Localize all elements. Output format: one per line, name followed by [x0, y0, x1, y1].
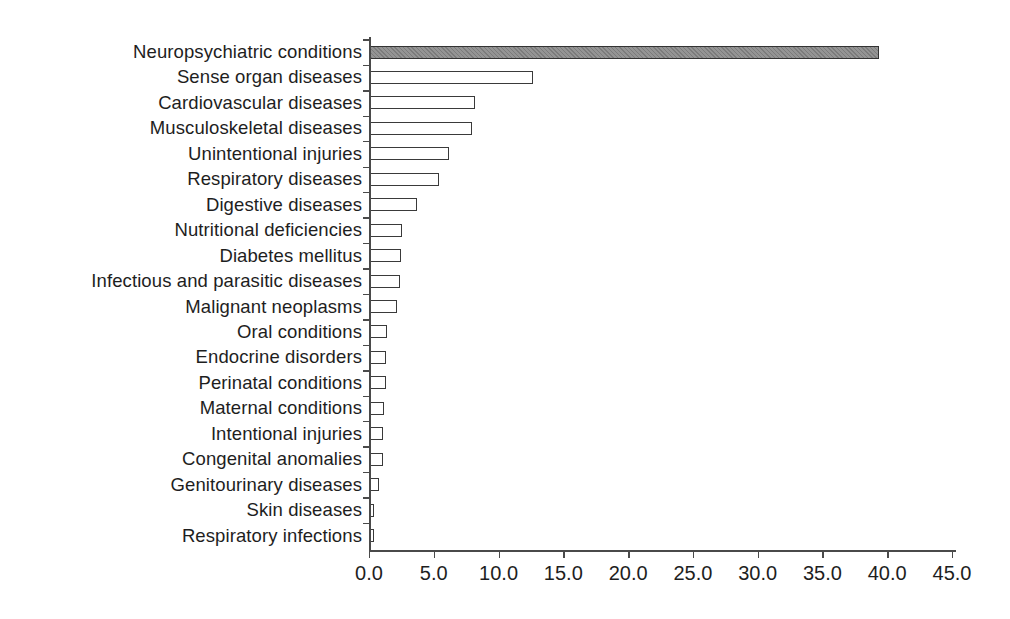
- y-axis-tick: [363, 65, 369, 66]
- category-label: Genitourinary diseases: [0, 476, 362, 495]
- category-label: Maternal conditions: [0, 399, 362, 418]
- y-axis-tick: [363, 319, 369, 320]
- category-label: Skin diseases: [0, 501, 362, 520]
- x-axis-tick-label: 15.0: [544, 562, 583, 585]
- bar-plain: [370, 453, 383, 466]
- x-axis-tick: [952, 550, 953, 558]
- bar-plain: [370, 478, 379, 491]
- x-axis-tick: [628, 550, 629, 558]
- y-axis-tick: [363, 446, 369, 447]
- x-axis-tick-label: 25.0: [673, 562, 712, 585]
- bar-plain: [370, 402, 384, 415]
- bar-plain: [370, 351, 386, 364]
- bar-plain: [370, 198, 417, 211]
- y-axis-tick: [363, 294, 369, 295]
- x-axis-tick: [499, 550, 500, 558]
- category-label: Unintentional injuries: [0, 145, 362, 164]
- category-label: Digestive diseases: [0, 196, 362, 215]
- bar-plain: [370, 325, 387, 338]
- bar-plain: [370, 173, 439, 186]
- x-axis-tick: [887, 550, 888, 558]
- y-axis-tick: [363, 472, 369, 473]
- bar-plain: [370, 96, 475, 109]
- x-axis-tick: [563, 550, 564, 558]
- y-axis-tick: [363, 370, 369, 371]
- category-label: Intentional injuries: [0, 425, 362, 444]
- x-axis-tick: [822, 550, 823, 558]
- category-label: Oral conditions: [0, 323, 362, 342]
- category-label: Congenital anomalies: [0, 450, 362, 469]
- y-axis-tick: [363, 39, 369, 40]
- category-label: Musculoskeletal diseases: [0, 119, 362, 138]
- y-axis-tick: [363, 192, 369, 193]
- category-label: Malignant neoplasms: [0, 298, 362, 317]
- y-axis-tick: [363, 90, 369, 91]
- bar-plain: [370, 300, 397, 313]
- bar-plain: [370, 376, 386, 389]
- bar-plain: [370, 249, 401, 262]
- y-axis-tick: [363, 421, 369, 422]
- y-axis-tick: [363, 268, 369, 269]
- category-label: Endocrine disorders: [0, 348, 362, 367]
- category-label: Infectious and parasitic diseases: [0, 272, 362, 291]
- bar-highlighted: [370, 46, 879, 59]
- bar-plain: [370, 275, 400, 288]
- category-label: Perinatal conditions: [0, 374, 362, 393]
- category-label: Neuropsychiatric conditions: [0, 43, 362, 62]
- y-axis-line: [369, 37, 371, 550]
- category-label: Cardiovascular diseases: [0, 94, 362, 113]
- x-axis-tick-label: 10.0: [479, 562, 518, 585]
- bar-plain: [370, 71, 533, 84]
- bar-chart: Neuropsychiatric conditionsSense organ d…: [0, 0, 1010, 619]
- x-axis-tick-label: 20.0: [609, 562, 648, 585]
- bar-plain: [370, 122, 472, 135]
- x-axis-tick: [369, 550, 370, 558]
- y-axis-tick: [363, 167, 369, 168]
- bar-plain: [370, 147, 449, 160]
- x-axis-tick-label: 40.0: [868, 562, 907, 585]
- category-label: Nutritional deficiencies: [0, 221, 362, 240]
- x-axis-tick: [434, 550, 435, 558]
- y-axis-tick: [363, 396, 369, 397]
- x-axis-tick-label: 5.0: [420, 562, 448, 585]
- x-axis-tick-label: 35.0: [803, 562, 842, 585]
- x-axis-tick-label: 0.0: [355, 562, 383, 585]
- category-label: Respiratory diseases: [0, 170, 362, 189]
- category-label: Sense organ diseases: [0, 68, 362, 87]
- category-label: Diabetes mellitus: [0, 247, 362, 266]
- x-axis-tick-label: 45.0: [933, 562, 972, 585]
- y-axis-tick: [363, 523, 369, 524]
- x-axis-line: [369, 550, 956, 552]
- x-axis-tick: [693, 550, 694, 558]
- y-axis-tick: [363, 345, 369, 346]
- x-axis-tick-label: 30.0: [738, 562, 777, 585]
- bar-plain: [370, 224, 402, 237]
- x-axis-tick: [758, 550, 759, 558]
- bar-plain: [370, 427, 383, 440]
- y-axis-tick: [363, 497, 369, 498]
- y-axis-tick: [363, 243, 369, 244]
- y-axis-tick: [363, 116, 369, 117]
- category-label: Respiratory infections: [0, 527, 362, 546]
- y-axis-tick: [363, 141, 369, 142]
- y-axis-tick: [363, 217, 369, 218]
